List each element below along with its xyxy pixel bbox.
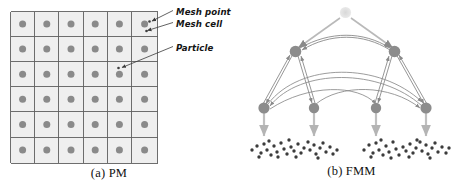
edge-n2b-to-n1l [301, 56, 315, 103]
particle-cluster-left [250, 138, 338, 159]
edge-n1l-to-n2b [298, 56, 312, 103]
particle-cluster-right [362, 138, 450, 159]
edges-level0-level1 [298, 18, 393, 48]
node-level2-a [258, 102, 269, 113]
edges-level1-level2 [263, 54, 427, 104]
tree-nodes [258, 7, 431, 114]
edge-root-to-n1r [351, 18, 393, 48]
edge-n1r-to-n1l [302, 37, 390, 50]
caption-pm: (a) PM [0, 166, 224, 181]
edge-n2d-to-n2a [270, 78, 422, 107]
caption-fmm: (b) FMM [236, 164, 461, 179]
node-level1-left [290, 46, 302, 58]
mesh-grid [11, 12, 158, 164]
annotation-particle: Particle [176, 43, 214, 53]
annotation-mesh-point: Mesh point [176, 7, 231, 17]
edge-n2a-to-n1l [263, 55, 290, 104]
edge-n2a-to-n2d [268, 72, 422, 104]
edges-level2-particles [264, 113, 426, 136]
node-level2-c [371, 103, 381, 113]
edges-m2l-level2 [268, 72, 422, 109]
edge-n2c-to-n1r [375, 56, 389, 103]
panel-fmm: M2L M2L/L2L M2L M2L/L2L P2M/L2P P2M/L2P … [230, 0, 461, 193]
edge-n2b-to-n2d [316, 89, 420, 108]
node-level1-right [389, 46, 401, 58]
annotation-mesh-cell: Mesh cell [176, 19, 222, 29]
edge-n2d-to-n1r [399, 55, 427, 104]
node-level2-b [309, 103, 319, 113]
figure-pm-vs-fmm: Mesh point Mesh cell Particle (a) PM [0, 0, 461, 193]
edge-root-to-n1l [298, 18, 340, 48]
node-level2-d [420, 102, 431, 113]
node-root-level0 [340, 7, 351, 18]
panel-pm: Mesh point Mesh cell Particle (a) PM [0, 0, 230, 193]
